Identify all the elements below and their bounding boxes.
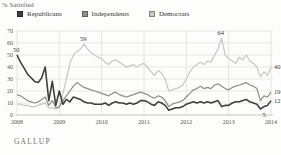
x-tick-label: 2014 bbox=[258, 119, 281, 126]
data-annotation-50: 50 bbox=[13, 46, 20, 53]
satisfaction-by-party-chart: % Satisfied RepublicansIndependentsDemoc… bbox=[0, 0, 281, 155]
plot-svg bbox=[0, 0, 281, 155]
x-tick-label: 2008 bbox=[4, 119, 30, 126]
y-tick-label: 20 bbox=[0, 88, 13, 95]
data-annotation-5: 5 bbox=[262, 111, 265, 118]
data-annotation-40: 40 bbox=[274, 63, 281, 70]
source-label: GALLUP bbox=[14, 137, 51, 146]
x-tick-label: 2010 bbox=[89, 119, 115, 126]
data-annotation-64: 64 bbox=[218, 29, 225, 36]
y-tick-label: 40 bbox=[0, 64, 13, 71]
y-tick-label: 30 bbox=[0, 76, 13, 83]
x-tick-label: 2013 bbox=[216, 119, 242, 126]
y-tick-label: 50 bbox=[0, 52, 13, 59]
y-tick-label: 10 bbox=[0, 100, 13, 107]
data-annotation-19: 19 bbox=[274, 88, 281, 95]
x-tick-label: 2009 bbox=[46, 119, 72, 126]
y-tick-label: 70 bbox=[0, 28, 13, 35]
y-tick-label: 60 bbox=[0, 40, 13, 47]
data-annotation-59: 59 bbox=[80, 35, 87, 42]
x-tick-label: 2011 bbox=[131, 119, 157, 126]
data-annotation-12: 12 bbox=[274, 97, 281, 104]
y-tick-label: 0 bbox=[0, 112, 13, 119]
x-tick-label: 2012 bbox=[173, 119, 199, 126]
